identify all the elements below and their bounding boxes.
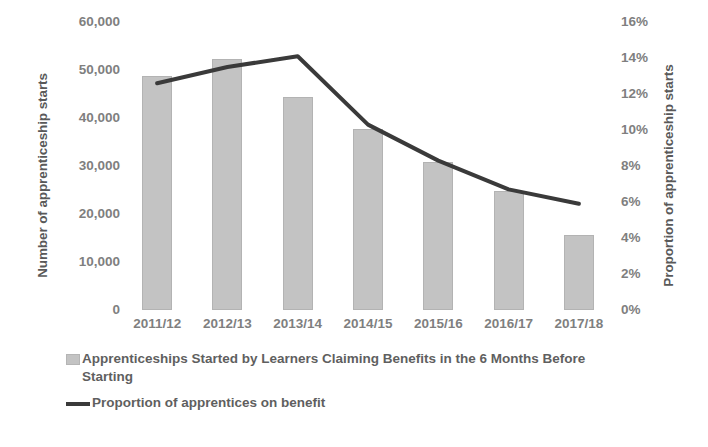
y-axis-left-tick-label: 60,000 [79,15,120,29]
x-axis-tick-label: 2013/14 [261,316,335,331]
x-axis-tick-label: 2014/15 [331,316,405,331]
line-path [157,56,579,204]
legend-bar-swatch-icon [66,354,80,365]
x-axis-tick-label: 2016/17 [472,316,546,331]
x-axis-tick-label: 2011/12 [120,316,194,331]
y-axis-right-tick-label: 0% [621,303,641,317]
plot-area [122,22,614,310]
y-axis-left-tick-label: 30,000 [79,159,120,173]
y-axis-left-tick-label: 20,000 [79,207,120,221]
legend-line-label: Proportion of apprentices on benefit [90,394,325,412]
y-axis-right-tick-label: 6% [621,195,641,209]
y-axis-right-tick-label: 16% [621,15,648,29]
y-axis-left-tick-label: 40,000 [79,111,120,125]
legend-bar-label: Apprenticeships Started by Learners Clai… [80,350,602,386]
y-axis-right-tick-label: 10% [621,123,648,137]
legend-line-swatch-icon [66,402,90,406]
y-axis-right-tick-label: 2% [621,267,641,281]
y-axis-right-tick-label: 12% [621,87,648,101]
y-axis-left-tick-label: 0 [112,303,120,317]
x-axis-tick-label: 2012/13 [190,316,264,331]
chart-container: Number of apprenticeship starts Proporti… [0,0,708,447]
y-axis-right-tick-label: 14% [621,51,648,65]
y-axis-right-tick-label: 4% [621,231,641,245]
y-axis-left-tick-label: 10,000 [79,255,120,269]
x-axis-tick-label: 2015/16 [401,316,475,331]
y-axis-right-tick-label: 8% [621,159,641,173]
line-series-proportion-of-apprentices-on-benefit [122,22,614,310]
chart-legend: Apprenticeships Started by Learners Clai… [66,350,666,420]
y-axis-left-tick-label: 50,000 [79,63,120,77]
legend-item-bar: Apprenticeships Started by Learners Clai… [66,350,666,386]
x-axis-category-labels: 2011/122012/132013/142014/152015/162016/… [122,316,614,338]
x-axis-tick-label: 2017/18 [542,316,616,331]
legend-item-line: Proportion of apprentices on benefit [66,394,666,412]
